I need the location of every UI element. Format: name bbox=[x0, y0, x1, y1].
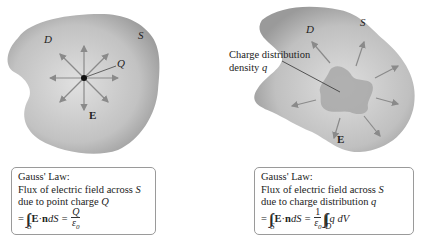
fraction: Qε0 bbox=[71, 207, 80, 232]
caption-line1: Flux of electric field across S bbox=[18, 184, 149, 197]
point-charge-dot bbox=[81, 75, 87, 81]
caption-line2: due to point charge Q bbox=[18, 196, 149, 209]
left-region-label: D bbox=[44, 34, 52, 45]
distribution-label-line1: Charge distribution bbox=[229, 50, 310, 61]
right-caption-box: Gauss' Law: Flux of electric field acros… bbox=[254, 167, 414, 235]
caption-title: Gauss' Law: bbox=[261, 171, 407, 184]
right-region-label: D bbox=[306, 24, 314, 35]
fraction: 1ε0 bbox=[314, 207, 321, 232]
left-caption-box: Gauss' Law: Flux of electric field acros… bbox=[11, 167, 156, 235]
left-charge-label: Q bbox=[117, 58, 125, 69]
left-surface-label: S bbox=[138, 30, 144, 41]
caption-line2: due to charge distribution q bbox=[261, 196, 407, 209]
distribution-label-line2: density q bbox=[229, 63, 267, 74]
caption-title: Gauss' Law: bbox=[18, 171, 149, 184]
right-field-label: E bbox=[337, 134, 344, 145]
gauss-equation-point: = ∫∫S E · n dS = Qε0 bbox=[18, 209, 149, 231]
gauss-equation-distribution: = ∫∫S E · n dS = 1ε0 ∫∫∫D q dV bbox=[261, 209, 407, 231]
left-field-label: E bbox=[89, 110, 96, 121]
right-surface-label: S bbox=[360, 17, 366, 28]
caption-line1: Flux of electric field across S bbox=[261, 184, 407, 197]
